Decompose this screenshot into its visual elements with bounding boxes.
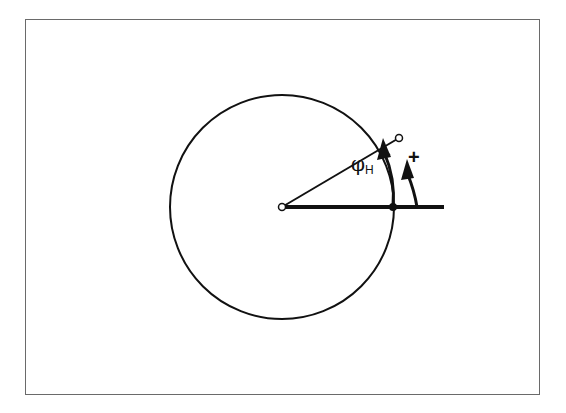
angle-symbol: φ [351,152,365,176]
angle-label: φH [351,152,374,177]
angle-diagram [0,0,566,413]
angle-subscript: H [365,163,374,177]
reference-point [389,203,397,211]
circle-point [396,135,403,142]
center-point [279,204,286,211]
direction-sign: + [408,146,420,169]
angle-arc-arrow [384,152,393,207]
direction-arc-arrow [408,175,417,207]
